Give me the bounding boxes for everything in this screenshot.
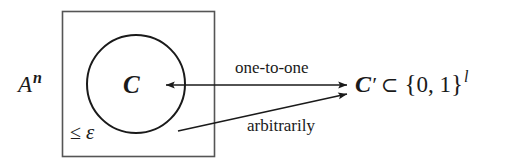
binary-alphabet: 0, 1 [416, 72, 451, 97]
code-set-label: C [123, 72, 140, 97]
ambient-set-base: A [18, 72, 32, 97]
image-set-superscript: l [464, 68, 468, 85]
open-brace: { [404, 70, 416, 97]
distance-bound-label: ≤ε [70, 122, 94, 143]
ambient-set-superscript: n [33, 69, 42, 86]
one-to-one-label: one-to-one [235, 59, 309, 76]
prime-symbol: ′ [371, 72, 376, 97]
figure-container: An C ≤ε one-to-one arbitrarily C′⊂{0, 1}… [0, 0, 515, 167]
image-set-name: C [355, 71, 371, 97]
subset-icon: ⊂ [381, 73, 399, 97]
ambient-set-label: An [18, 70, 42, 96]
less-than-or-equal-icon: ≤ [70, 121, 81, 143]
image-set-label: C′⊂{0, 1}l [355, 69, 468, 96]
close-brace: } [451, 70, 463, 97]
arbitrarily-label: arbitrarily [247, 117, 315, 134]
epsilon-symbol: ε [86, 120, 94, 144]
